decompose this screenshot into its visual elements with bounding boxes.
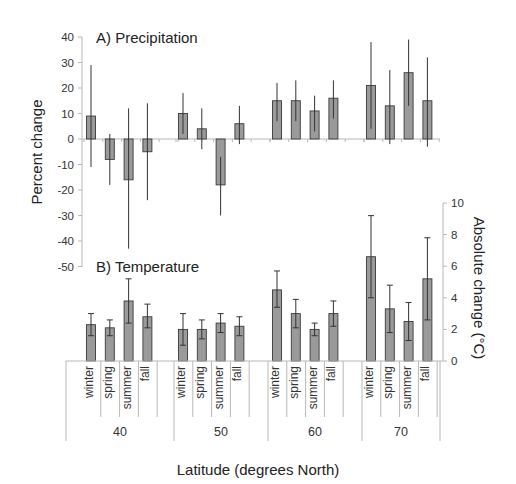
- left-axis-title: Percent change: [28, 99, 45, 204]
- category-label: summer: [306, 366, 320, 409]
- temperature-panel-title: B) Temperature: [96, 258, 199, 275]
- category-label: spring: [287, 366, 301, 399]
- y2-tick-label: 8: [451, 229, 457, 241]
- temperature-y-axis: 1086420: [443, 197, 464, 367]
- latitude-group-label: 70: [394, 425, 408, 439]
- y-tick-label: 20: [61, 82, 74, 94]
- category-label: winter: [268, 366, 282, 399]
- category-label: spring: [193, 366, 207, 399]
- y-tick-label: 40: [61, 31, 74, 43]
- y-tick-label: -40: [57, 235, 74, 247]
- category-label: spring: [381, 366, 395, 399]
- y-tick-label: -10: [57, 159, 74, 171]
- category-label: fall: [418, 366, 432, 381]
- category-axis: winterspringsummerfall40winterspringsumm…: [66, 361, 443, 441]
- latitude-group-label: 50: [214, 425, 228, 439]
- category-label: spring: [101, 366, 115, 399]
- category-label: winter: [82, 366, 96, 399]
- category-label: winter: [362, 366, 376, 399]
- y2-tick-label: 4: [451, 292, 458, 304]
- temperature-bars: [87, 216, 432, 361]
- y-tick-label: 0: [68, 133, 74, 145]
- precipitation-panel-title: A) Precipitation: [96, 29, 198, 46]
- category-label: winter: [174, 366, 188, 399]
- chart: 403020100-10-20-30-40-50 1086420 winters…: [0, 0, 516, 484]
- y-tick-label: -30: [57, 210, 74, 222]
- category-label: fall: [138, 366, 152, 381]
- x-axis-title: Latitude (degrees North): [177, 461, 340, 478]
- category-label: fall: [230, 366, 244, 381]
- y2-tick-label: 0: [451, 355, 457, 367]
- latitude-group-label: 40: [113, 425, 127, 439]
- y2-tick-label: 10: [451, 197, 464, 209]
- y-tick-label: -50: [57, 261, 74, 273]
- category-label: summer: [400, 366, 414, 409]
- y-tick-label: -20: [57, 184, 74, 196]
- precipitation-bars: [87, 40, 432, 249]
- category-label: summer: [120, 366, 134, 409]
- precipitation-y-axis: 403020100-10-20-30-40-50: [57, 31, 440, 273]
- y2-tick-label: 2: [451, 323, 457, 335]
- latitude-group-label: 60: [308, 425, 322, 439]
- category-label: fall: [324, 366, 338, 381]
- y-tick-label: 30: [61, 57, 74, 69]
- y-tick-label: 10: [61, 108, 74, 120]
- right-axis-title: Absolute change (°C): [471, 217, 488, 360]
- category-label: summer: [212, 366, 226, 409]
- y2-tick-label: 6: [451, 260, 457, 272]
